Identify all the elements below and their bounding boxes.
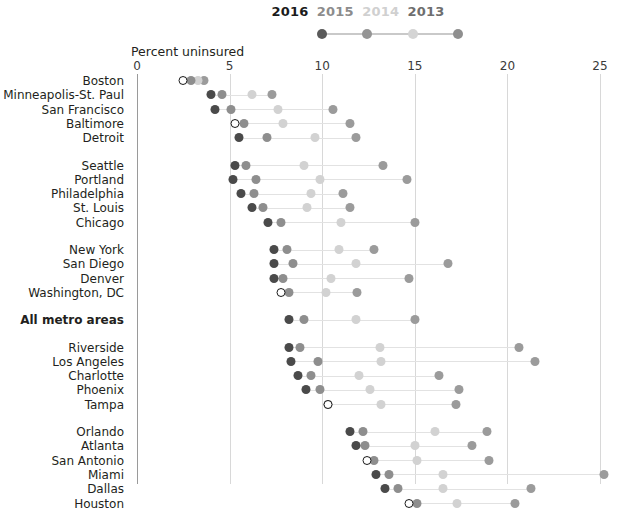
dot-2013[interactable] (338, 189, 347, 198)
dot-2013[interactable] (353, 288, 362, 297)
dot-2013[interactable] (351, 133, 360, 142)
dot-2013[interactable] (410, 315, 419, 324)
dot-2014[interactable] (336, 218, 345, 227)
dot-2013[interactable] (514, 343, 523, 352)
dot-2013[interactable] (345, 203, 354, 212)
dot-2013[interactable] (345, 119, 354, 128)
dot-2015[interactable] (307, 371, 316, 380)
dot-2016[interactable] (207, 90, 216, 99)
dot-2014[interactable] (273, 105, 282, 114)
dot-2013[interactable] (410, 218, 419, 227)
dot-2014[interactable] (438, 484, 447, 493)
dot-2016[interactable] (231, 119, 240, 128)
dot-2016[interactable] (247, 203, 256, 212)
dot-2016[interactable] (264, 218, 273, 227)
dot-2015[interactable] (240, 119, 249, 128)
dot-2013[interactable] (483, 427, 492, 436)
legend-label-2014[interactable]: 2014 (362, 4, 399, 19)
dot-2014[interactable] (431, 427, 440, 436)
dot-2015[interactable] (283, 245, 292, 254)
dot-2015[interactable] (251, 175, 260, 184)
dot-2013[interactable] (455, 385, 464, 394)
dot-2013[interactable] (329, 105, 338, 114)
dot-2014[interactable] (351, 315, 360, 324)
dot-2014[interactable] (279, 119, 288, 128)
dot-2016[interactable] (284, 315, 293, 324)
dot-2015[interactable] (227, 105, 236, 114)
dot-2015[interactable] (360, 441, 369, 450)
dot-2014[interactable] (316, 175, 325, 184)
dot-2016[interactable] (301, 385, 310, 394)
legend-label-2015[interactable]: 2015 (317, 4, 354, 19)
dot-2016[interactable] (236, 189, 245, 198)
dot-2014[interactable] (303, 203, 312, 212)
dot-2014[interactable] (377, 357, 386, 366)
dot-2015[interactable] (279, 274, 288, 283)
dot-2014[interactable] (375, 343, 384, 352)
dot-2014[interactable] (307, 189, 316, 198)
dot-2015[interactable] (295, 343, 304, 352)
dot-2013[interactable] (527, 484, 536, 493)
dot-2014[interactable] (412, 456, 421, 465)
dot-2016[interactable] (234, 133, 243, 142)
legend-dot-2016[interactable] (317, 29, 327, 39)
dot-2014[interactable] (377, 400, 386, 409)
dot-2016[interactable] (270, 274, 279, 283)
dot-2015[interactable] (277, 218, 286, 227)
dot-2014[interactable] (310, 133, 319, 142)
dot-2015[interactable] (314, 357, 323, 366)
dot-2015[interactable] (262, 133, 271, 142)
dot-2014[interactable] (366, 385, 375, 394)
dot-2013[interactable] (599, 470, 608, 479)
dot-2014[interactable] (299, 161, 308, 170)
dot-2016[interactable] (362, 456, 371, 465)
dot-2014[interactable] (247, 90, 256, 99)
dot-2013[interactable] (370, 245, 379, 254)
dot-2013[interactable] (468, 441, 477, 450)
dot-2014[interactable] (438, 470, 447, 479)
dot-2016[interactable] (270, 245, 279, 254)
dot-2016[interactable] (179, 76, 188, 85)
dot-2013[interactable] (403, 175, 412, 184)
dot-2013[interactable] (510, 499, 519, 508)
dot-2014[interactable] (410, 441, 419, 450)
dot-2014[interactable] (453, 499, 462, 508)
dot-2013[interactable] (379, 161, 388, 170)
legend-label-2016[interactable]: 2016 (272, 4, 309, 19)
dot-2016[interactable] (210, 105, 219, 114)
dot-2016[interactable] (229, 175, 238, 184)
dot-2016[interactable] (381, 484, 390, 493)
dot-2016[interactable] (231, 161, 240, 170)
dot-2015[interactable] (249, 189, 258, 198)
dot-2013[interactable] (451, 400, 460, 409)
dot-2016[interactable] (294, 371, 303, 380)
dot-2015[interactable] (299, 315, 308, 324)
dot-2013[interactable] (268, 90, 277, 99)
dot-2014[interactable] (351, 259, 360, 268)
dot-2015[interactable] (242, 161, 251, 170)
dot-2014[interactable] (334, 245, 343, 254)
dot-2014[interactable] (321, 288, 330, 297)
legend-dot-2014[interactable] (408, 29, 418, 39)
dot-2015[interactable] (316, 385, 325, 394)
dot-2013[interactable] (434, 371, 443, 380)
dot-2016[interactable] (371, 470, 380, 479)
dot-2013[interactable] (484, 456, 493, 465)
dot-2014[interactable] (355, 371, 364, 380)
dot-2013[interactable] (444, 259, 453, 268)
dot-2016[interactable] (270, 259, 279, 268)
dot-2016[interactable] (277, 288, 286, 297)
dot-2016[interactable] (351, 441, 360, 450)
dot-2013[interactable] (531, 357, 540, 366)
legend-dot-2015[interactable] (362, 29, 372, 39)
dot-2016[interactable] (323, 400, 332, 409)
dot-2015[interactable] (258, 203, 267, 212)
dot-2016[interactable] (345, 427, 354, 436)
dot-2015[interactable] (358, 427, 367, 436)
legend-label-2013[interactable]: 2013 (408, 4, 445, 19)
dot-2015[interactable] (384, 470, 393, 479)
dot-2015[interactable] (394, 484, 403, 493)
dot-2015[interactable] (218, 90, 227, 99)
dot-2016[interactable] (284, 343, 293, 352)
dot-2016[interactable] (286, 357, 295, 366)
